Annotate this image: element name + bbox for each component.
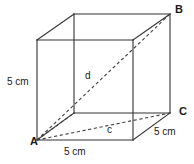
vertex-label-A: A [30,136,38,147]
diagonal-d-line [37,14,170,140]
dimension-label-bottom-edge: 5 cm [64,147,86,157]
diagonal-label-c: c [107,125,112,135]
vertex-label-B: B [175,4,183,15]
cube-diagram: A B C 5 cm 5 cm 5 cm d c [0,0,194,164]
dimension-label-right-edge: 5 cm [154,127,176,137]
diagonal-label-d: d [85,71,91,81]
edge-depth-top-left [37,14,74,40]
vertex-label-C: C [179,106,187,117]
diagonal-c-line [37,113,170,140]
edge-depth-top-right [133,14,170,40]
dimension-label-left-edge: 5 cm [7,77,29,87]
cube-dashed-diagonals [37,14,170,140]
cube-solid-edges [37,14,170,140]
